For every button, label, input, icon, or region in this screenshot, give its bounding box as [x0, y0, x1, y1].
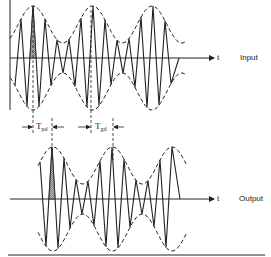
phase-delay-label: Tpd — [36, 121, 48, 132]
output-t-label: t — [217, 193, 220, 203]
input-panel — [10, 0, 214, 110]
input-envelope — [10, 6, 186, 43]
input-t-label: t — [217, 52, 220, 62]
input-carrier — [15, 6, 179, 108]
output-carrier — [40, 147, 180, 249]
input-label: Input — [240, 53, 258, 62]
group-delay-label: Tgd — [95, 121, 107, 132]
output-label: Output — [239, 194, 263, 203]
output-panel — [10, 147, 214, 251]
